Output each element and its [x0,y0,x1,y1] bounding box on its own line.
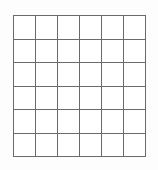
grid-row [14,133,146,157]
grid-cell[interactable] [36,63,58,87]
grid-cell[interactable] [58,86,80,110]
grid-row [14,86,146,110]
grid-cell[interactable] [80,86,102,110]
grid-cell[interactable] [124,63,146,87]
grid-cell[interactable] [14,133,36,157]
grid-cell[interactable] [102,110,124,134]
grid-cell[interactable] [80,16,102,40]
grid-cell[interactable] [14,86,36,110]
grid-cell[interactable] [58,110,80,134]
grid-cell[interactable] [124,133,146,157]
grid-row [14,39,146,63]
grid-cell[interactable] [80,39,102,63]
grid-row [14,16,146,40]
grid-cell[interactable] [14,16,36,40]
grid-cell[interactable] [36,110,58,134]
grid-row [14,63,146,87]
grid-cell[interactable] [124,39,146,63]
grid-cell[interactable] [102,86,124,110]
grid-cell[interactable] [14,110,36,134]
grid-cell[interactable] [80,110,102,134]
grid-cell[interactable] [58,133,80,157]
grid-cell[interactable] [124,86,146,110]
grid-table [13,15,146,157]
grid-cell[interactable] [14,63,36,87]
grid-row [14,110,146,134]
grid-cell[interactable] [36,86,58,110]
grid-cell[interactable] [14,39,36,63]
grid-cell[interactable] [36,16,58,40]
grid-cell[interactable] [58,39,80,63]
grid-cell[interactable] [102,133,124,157]
grid-cell[interactable] [36,133,58,157]
grid-cell[interactable] [102,16,124,40]
grid-cell[interactable] [102,63,124,87]
grid-cell[interactable] [58,16,80,40]
grid-cell[interactable] [124,16,146,40]
grid-figure [13,15,146,157]
grid-body [14,16,146,157]
grid-cell[interactable] [124,110,146,134]
grid-cell[interactable] [80,133,102,157]
grid-cell[interactable] [102,39,124,63]
grid-cell[interactable] [80,63,102,87]
grid-cell[interactable] [58,63,80,87]
grid-cell[interactable] [36,39,58,63]
